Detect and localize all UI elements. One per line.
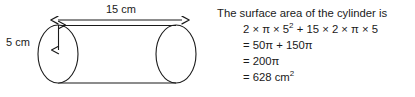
cylinder-diagram: 15 cm 5 cm [0, 0, 210, 97]
step-3-main: = 200π [243, 55, 279, 67]
diameter-label: 5 cm [6, 36, 30, 48]
step-2-main: = 50π + 150π [243, 39, 313, 51]
solution-step-3: = 200π [243, 53, 415, 69]
solution-step-1: 2 × π × 52 + 15 × 2 × π × 5 [243, 21, 415, 37]
step-4-exponent: 2 [290, 69, 294, 78]
solution-intro-text: The surface area of the cylinder is [217, 5, 415, 21]
worked-example-figure: 15 cm 5 cm The surface area of the cylin… [0, 0, 415, 97]
step-1-tail: + 15 × 2 × π × 5 [294, 23, 378, 35]
cylinder-svg [0, 0, 210, 97]
solution-step-2: = 50π + 150π [243, 37, 415, 53]
step-1-main: 2 × π × 5 [243, 23, 289, 35]
cylinder-right-ellipse [156, 25, 196, 83]
solution-step-4: = 628 cm2 [243, 69, 415, 85]
solution-block: The surface area of the cylinder is 2 × … [217, 5, 415, 85]
length-label: 15 cm [106, 3, 136, 15]
step-4-main: = 628 cm [243, 71, 290, 83]
